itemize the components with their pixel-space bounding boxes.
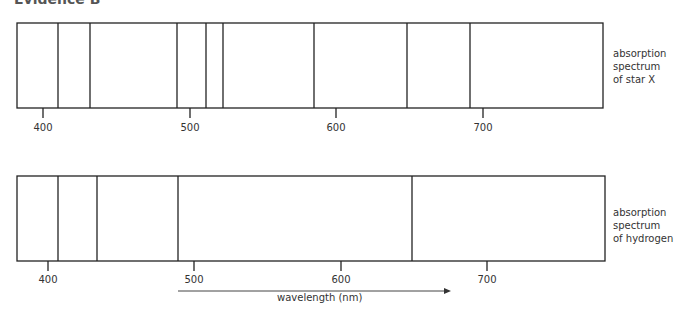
star-spectrum-panel xyxy=(17,23,603,118)
tick-label-700: 700 xyxy=(477,274,496,285)
tick-label-400: 400 xyxy=(38,274,57,285)
hydrogen-spectrum-panel xyxy=(17,176,605,271)
hydrogen-spectrum-box xyxy=(17,176,605,261)
label-line: of hydrogen xyxy=(613,232,673,245)
star-spectrum-box xyxy=(17,23,603,108)
tick-label-500: 500 xyxy=(184,274,203,285)
label-line: spectrum xyxy=(613,219,673,232)
wavelength-axis-label: wavelength (nm) xyxy=(277,292,362,303)
star-spectrum-label: absorption spectrum of star X xyxy=(613,47,666,86)
label-line: spectrum xyxy=(613,60,666,73)
tick-label-400: 400 xyxy=(33,122,52,133)
tick-label-600: 600 xyxy=(331,274,350,285)
label-line: of star X xyxy=(613,73,666,86)
tick-label-700: 700 xyxy=(473,122,492,133)
label-line: absorption xyxy=(613,47,666,60)
tick-label-600: 600 xyxy=(326,122,345,133)
label-line: absorption xyxy=(613,206,673,219)
hydrogen-spectrum-label: absorption spectrum of hydrogen xyxy=(613,206,673,245)
tick-label-500: 500 xyxy=(180,122,199,133)
spectra-diagram: 400 500 600 700 400 500 600 700 xyxy=(0,0,680,319)
